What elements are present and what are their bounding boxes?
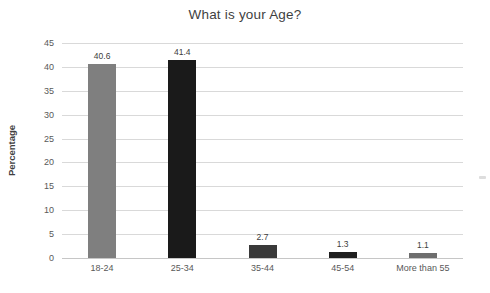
y-tick-label-35: 35 [0,86,54,96]
plot-area: 40.641.42.71.31.1 [62,43,463,259]
x-tick-label-More than 55: More than 55 [396,263,449,273]
x-axis-tick-labels: 18-2425-3435-4445-54More than 55 [62,263,463,277]
gridline-45 [62,43,463,44]
bar-value-label-18-24: 40.6 [94,51,111,61]
bar-value-label-25-34: 41.4 [174,47,191,57]
gridline-35 [62,91,463,92]
bar-25-34[interactable] [168,60,196,258]
y-tick-label-0: 0 [0,253,54,263]
gridline-25 [62,139,463,140]
y-tick-label-45: 45 [0,38,54,48]
gridline-10 [62,210,463,211]
bar-More than 55[interactable] [409,253,437,258]
gridline-15 [62,186,463,187]
y-tick-label-25: 25 [0,134,54,144]
gridline-20 [62,162,463,163]
bar-18-24[interactable] [88,64,116,258]
y-tick-label-10: 10 [0,205,54,215]
bar-value-label-35-44: 2.7 [257,232,269,242]
x-tick-label-35-44: 35-44 [251,263,274,273]
y-tick-label-15: 15 [0,181,54,191]
x-tick-label-25-34: 25-34 [171,263,194,273]
bar-35-44[interactable] [249,245,277,258]
gridline-40 [62,67,463,68]
y-tick-label-5: 5 [0,229,54,239]
stray-mark-artifact [479,176,486,179]
chart-frame: What is your Age? Percentage 05101520253… [0,0,490,293]
y-tick-label-20: 20 [0,157,54,167]
bar-45-54[interactable] [329,252,357,258]
bar-value-label-More than 55: 1.1 [417,240,429,250]
x-tick-label-18-24: 18-24 [91,263,114,273]
bar-value-label-45-54: 1.3 [337,239,349,249]
chart-title: What is your Age? [0,7,490,22]
y-tick-label-30: 30 [0,110,54,120]
gridline-30 [62,115,463,116]
x-tick-label-45-54: 45-54 [331,263,354,273]
y-axis-tick-labels: 051015202530354045 [0,43,54,258]
y-tick-label-40: 40 [0,62,54,72]
